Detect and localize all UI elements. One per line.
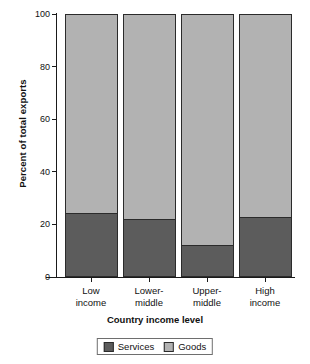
x-label-line-2: income: [228, 297, 302, 309]
y-tick-label: 40: [40, 167, 50, 177]
x-label-high-income: High income: [228, 285, 302, 309]
legend-swatch-goods-icon: [164, 342, 174, 352]
y-tick-mark: [52, 119, 57, 120]
y-tick-2: 40: [40, 167, 57, 177]
x-tick-mark: [207, 277, 208, 282]
y-tick-0: 0: [45, 272, 57, 282]
bar-lower-middle[interactable]: [123, 14, 176, 277]
y-tick-mark: [52, 171, 57, 172]
legend-item-services[interactable]: Services: [104, 341, 154, 352]
legend-label-services: Services: [118, 341, 154, 352]
bar-segment-services: [240, 217, 291, 276]
y-tick-mark: [52, 224, 57, 225]
y-tick-1: 20: [40, 219, 57, 229]
x-tick-mark: [149, 277, 150, 282]
bar-segment-services: [182, 245, 233, 276]
x-tick-mark: [265, 277, 266, 282]
y-tick-5: 100: [35, 9, 57, 19]
bar-segment-services: [66, 213, 117, 276]
y-tick-label: 20: [40, 219, 50, 229]
y-tick-label: 60: [40, 114, 50, 124]
x-axis-line: [46, 277, 295, 278]
y-tick-mark: [52, 66, 57, 67]
legend-swatch-services-icon: [104, 342, 114, 352]
legend-label-goods: Goods: [178, 341, 206, 352]
y-tick-mark: [52, 14, 57, 15]
bar-segment-services: [124, 219, 175, 276]
x-tick-mark: [91, 277, 92, 282]
plot-area: 0 20 40 60 80 100: [57, 14, 294, 277]
y-tick-label: 0: [45, 272, 50, 282]
legend: Services Goods: [97, 338, 213, 355]
y-tick-4: 80: [40, 62, 57, 72]
y-tick-label: 100: [35, 9, 50, 19]
legend-item-goods[interactable]: Goods: [164, 341, 206, 352]
bar-high-income[interactable]: [239, 14, 292, 277]
bar-low-income[interactable]: [65, 14, 118, 277]
x-axis-title: Country income level: [0, 314, 310, 325]
y-tick-mark: [52, 277, 57, 278]
y-tick-label: 80: [40, 62, 50, 72]
x-label-line-1: High: [228, 285, 302, 297]
bar-upper-middle[interactable]: [181, 14, 234, 277]
y-axis-title: Percent of total exports: [17, 49, 28, 219]
stacked-bar-chart: Percent of total exports 0 20 40 60 80 1…: [0, 0, 310, 364]
y-tick-3: 60: [40, 114, 57, 124]
